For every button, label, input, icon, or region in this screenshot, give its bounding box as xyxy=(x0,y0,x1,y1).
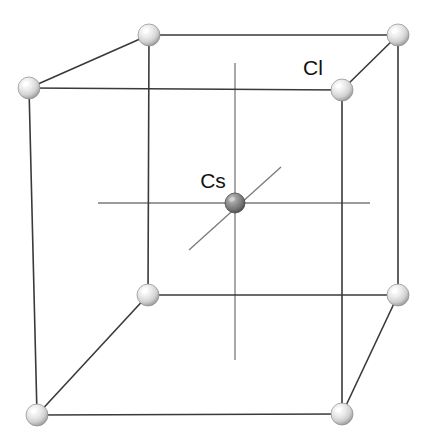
cesium-sphere-body xyxy=(225,193,245,213)
corner-front-bottom-right xyxy=(331,403,353,425)
cesium-atom-group xyxy=(225,193,245,213)
chlorine-sphere-body xyxy=(387,24,409,46)
label-cs: Cs xyxy=(200,169,226,192)
edge-vert-back-left xyxy=(148,35,149,295)
chlorine-sphere-body xyxy=(137,284,159,306)
corner-front-top-left xyxy=(18,77,40,99)
center-cs xyxy=(225,193,245,213)
corner-front-top-right xyxy=(331,79,353,101)
figure-background xyxy=(0,0,434,447)
corner-back-bottom-left xyxy=(137,284,159,306)
edge-bottom-front xyxy=(37,414,342,415)
corner-front-bottom-left xyxy=(26,404,48,426)
crystal-structure-canvas: ClCs xyxy=(0,0,434,447)
chlorine-sphere-body xyxy=(331,403,353,425)
corner-back-bottom-right xyxy=(387,284,409,306)
chlorine-sphere-body xyxy=(138,24,160,46)
chlorine-sphere-body xyxy=(18,77,40,99)
label-cl: Cl xyxy=(303,56,323,79)
cscl-unit-cell-figure: ClCs xyxy=(0,0,434,447)
chlorine-sphere-body xyxy=(331,79,353,101)
chlorine-sphere-body xyxy=(387,284,409,306)
chlorine-sphere-body xyxy=(26,404,48,426)
corner-back-top-left xyxy=(138,24,160,46)
corner-back-top-right xyxy=(387,24,409,46)
